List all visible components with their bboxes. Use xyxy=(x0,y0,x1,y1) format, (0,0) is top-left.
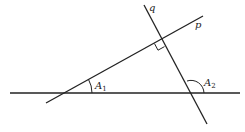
angle-a1-arc xyxy=(89,79,93,93)
label-a1-sub: 1 xyxy=(102,85,106,93)
right-angle-marker xyxy=(155,44,165,51)
label-p: p xyxy=(195,19,202,30)
label-a2-letter: A xyxy=(203,77,211,88)
line-p xyxy=(46,16,203,103)
label-a2-sub: 2 xyxy=(211,82,215,90)
label-a2: A2 xyxy=(203,77,216,90)
label-a1: A1 xyxy=(94,80,107,93)
label-a1-letter: A xyxy=(94,80,102,91)
label-q: q xyxy=(149,2,155,13)
diagram-svg: q p A1 A2 xyxy=(0,0,245,132)
geometry-diagram: q p A1 A2 xyxy=(0,0,245,132)
